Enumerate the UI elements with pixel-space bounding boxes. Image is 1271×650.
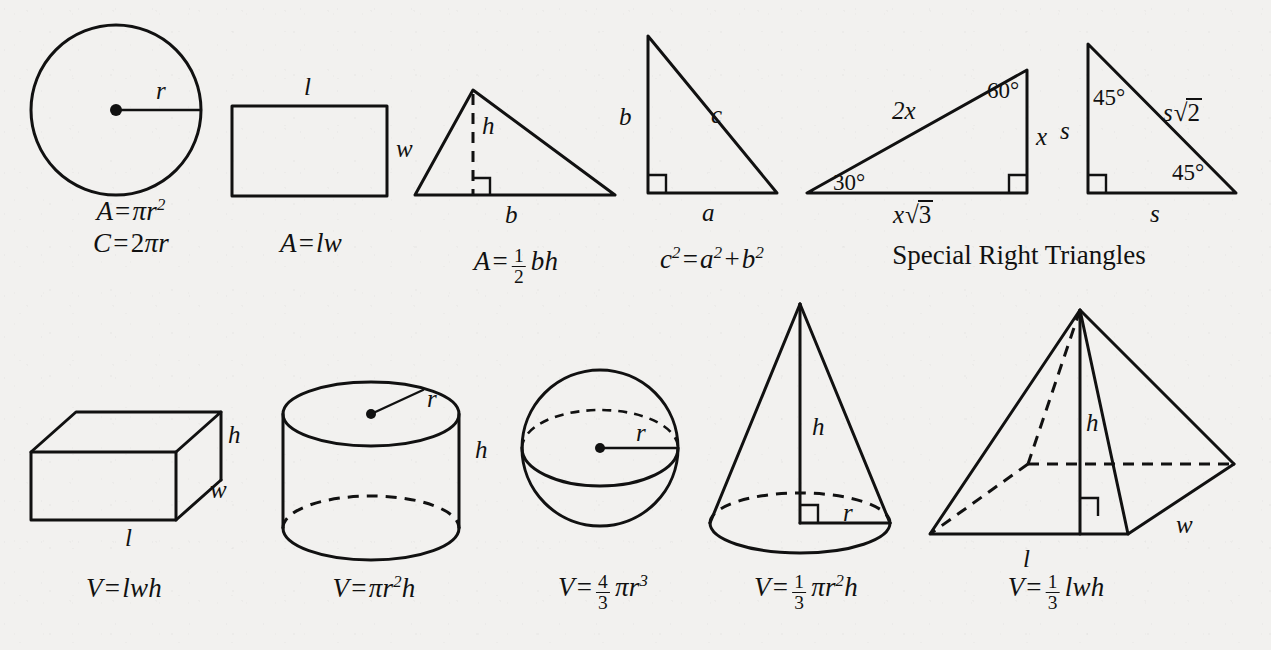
prism-volume-formula: V=lwh — [86, 575, 162, 602]
geometry-formula-sheet: r l w h b b c a 30° 60° 2x x — [0, 0, 1271, 650]
circle-area-lhs: A — [96, 196, 113, 226]
sphere-volume-exponent: 3 — [639, 571, 648, 590]
pi-symbol: π — [144, 228, 158, 258]
triangle-area-formula: A=12bh — [474, 246, 558, 287]
circumference-lhs: C — [93, 228, 111, 258]
pi-symbol: π — [808, 572, 825, 602]
circle-figure — [24, 14, 214, 210]
circle-area-exponent: 2 — [157, 195, 166, 214]
cone-height-label: h — [812, 414, 825, 439]
sphere-volume-formula: V=43πr3 — [558, 572, 648, 613]
hypotenuse-coefficient: s — [1163, 99, 1173, 126]
pyramid-volume-lhs: V — [1008, 572, 1025, 602]
hypotenuse-s-root2-label: s√2 — [1163, 98, 1202, 125]
circumference-radius: r — [158, 228, 169, 258]
prism-width-label: w — [210, 477, 227, 502]
pyramid-volume-formula: V=13lwh — [1008, 572, 1105, 613]
leg-s-vertical-label: s — [1060, 118, 1070, 143]
triangle-area-rhs: bh — [528, 246, 558, 276]
rectangle-length-label: l — [304, 74, 311, 99]
pi-symbol: π — [612, 572, 629, 602]
pythagorean-c: c — [660, 244, 672, 274]
pythagorean-c-exponent: 2 — [672, 243, 681, 262]
long-leg-x-root3-label: x√3 — [893, 200, 933, 227]
circle-area-radius: r — [146, 196, 157, 226]
triangle-base-label: b — [505, 202, 518, 227]
cone-volume-lhs: V — [754, 572, 771, 602]
cone-volume-height: h — [844, 572, 858, 602]
short-leg-x-label: x — [1036, 124, 1047, 149]
fraction-numerator: 4 — [596, 572, 610, 593]
equals-sign: = — [111, 228, 130, 258]
radicand-2: 2 — [1186, 98, 1202, 125]
cone-volume-formula: V=13πr2h — [754, 572, 858, 613]
prism-height-label: h — [228, 422, 241, 447]
plus-sign: + — [722, 244, 741, 274]
angle-45-bottom-label: 45° — [1172, 161, 1204, 184]
cylinder-volume-radius: r — [382, 573, 393, 603]
pythagorean-b: b — [742, 244, 756, 274]
pyramid-length-label: l — [1023, 546, 1030, 571]
fraction-denominator: 3 — [1046, 593, 1060, 614]
right-triangle-hypotenuse-label: c — [711, 102, 722, 127]
cone-figure — [700, 296, 900, 546]
fraction-numerator: 1 — [1046, 572, 1060, 593]
rectangle-figure — [230, 104, 392, 200]
circumference-coefficient: 2 — [131, 228, 145, 258]
fraction-denominator: 2 — [512, 267, 526, 288]
right-triangle-leg-a-label: a — [702, 200, 715, 225]
cylinder-radius-label: r — [427, 386, 437, 411]
triangle-area-lhs: A — [474, 246, 491, 276]
triangle-45-45-90-figure — [1080, 38, 1244, 204]
one-third-fraction: 13 — [1046, 572, 1060, 613]
cylinder-height-label: h — [475, 437, 488, 462]
cone-volume-exponent: 2 — [836, 571, 845, 590]
right-triangle-leg-b-label: b — [619, 104, 632, 129]
long-leg-coefficient: x — [893, 201, 904, 228]
hypotenuse-2x-label: 2x — [892, 98, 916, 123]
equals-sign: = — [1024, 572, 1043, 602]
angle-30-label: 30° — [833, 171, 865, 194]
equals-sign: = — [575, 572, 594, 602]
equals-sign: = — [103, 573, 122, 603]
radical-sign: √ — [1174, 99, 1188, 126]
rectangle-area-rhs: lw — [316, 228, 342, 258]
sphere-volume-lhs: V — [558, 572, 575, 602]
pythagorean-a: a — [700, 244, 714, 274]
circle-area-formula: A=πr2 — [96, 198, 165, 225]
prism-volume-lhs: V — [86, 573, 103, 603]
sphere-radius-label: r — [636, 420, 646, 445]
cylinder-volume-formula: V=πr2h — [333, 575, 416, 602]
pyramid-volume-rhs: lwh — [1062, 572, 1105, 602]
pyramid-height-label: h — [1086, 410, 1099, 435]
cone-radius-label: r — [843, 500, 853, 525]
cylinder-volume-exponent: 2 — [393, 572, 402, 591]
pyramid-figure — [918, 300, 1248, 550]
sphere-figure — [515, 366, 691, 538]
cone-volume-radius: r — [825, 572, 836, 602]
cylinder-figure — [275, 378, 475, 558]
circle-radius-label: r — [156, 78, 166, 103]
special-right-triangles-caption: Special Right Triangles — [892, 240, 1146, 271]
sqrt-2-radical: √2 — [1173, 98, 1202, 125]
radical-sign: √ — [905, 201, 919, 228]
angle-60-label: 60° — [987, 79, 1019, 102]
cylinder-volume-height: h — [402, 573, 416, 603]
prism-length-label: l — [125, 525, 132, 550]
leg-s-horizontal-label: s — [1150, 201, 1160, 226]
triangle-figure — [408, 82, 624, 204]
equals-sign: = — [349, 573, 368, 603]
fraction-numerator: 1 — [792, 572, 806, 593]
equals-sign: = — [681, 244, 700, 274]
one-half-fraction: 12 — [512, 246, 526, 287]
sqrt-3-radical: √3 — [904, 200, 933, 227]
one-third-fraction: 13 — [792, 572, 806, 613]
four-thirds-fraction: 43 — [596, 572, 610, 613]
equals-sign: = — [297, 228, 316, 258]
figure-layer: r l w h b b c a 30° 60° 2x x — [0, 0, 1271, 650]
equals-sign: = — [113, 196, 132, 226]
equals-sign: = — [490, 246, 509, 276]
rectangle-area-lhs: A — [280, 228, 297, 258]
sphere-volume-radius: r — [629, 572, 640, 602]
pyramid-width-label: w — [1176, 512, 1193, 537]
